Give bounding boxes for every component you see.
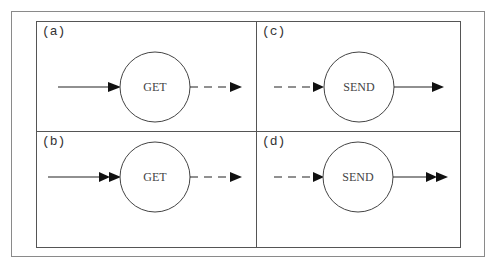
send-node-label: SEND — [342, 170, 374, 184]
arrowhead-icon — [109, 172, 121, 182]
arrowhead-icon — [313, 172, 324, 182]
arrowhead-icon — [108, 82, 121, 92]
diagram-canvas: GET GET SEND SEND — [0, 0, 496, 266]
arrowhead-icon — [432, 82, 444, 92]
send-node-label: SEND — [343, 80, 375, 94]
arrowhead-icon — [99, 172, 110, 182]
arrowhead-icon — [426, 172, 437, 182]
panel-b: GET — [48, 142, 242, 212]
arrowhead-icon — [436, 172, 448, 182]
get-node-label: GET — [143, 80, 167, 94]
arrowhead-icon — [313, 82, 324, 92]
panel-c: SEND — [274, 52, 444, 122]
arrowhead-icon — [230, 172, 242, 182]
panel-d: SEND — [274, 142, 448, 212]
get-node-label: GET — [143, 170, 167, 184]
arrowhead-icon — [230, 82, 242, 92]
panel-a: GET — [58, 52, 242, 122]
